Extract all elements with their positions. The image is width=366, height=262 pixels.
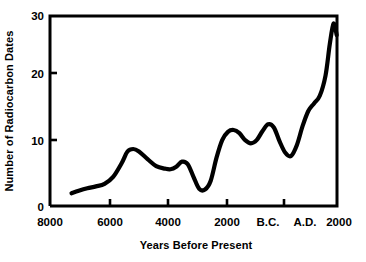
chart-svg: Number of Radiocarbon Dates 30 20 10 0 8… [0, 0, 366, 262]
x-tick-label-bc: B.C. [257, 216, 280, 228]
y-tick-label-0: 0 [38, 201, 44, 213]
y-axis-title: Number of Radiocarbon Dates [3, 30, 15, 191]
y-tick-label-30: 30 [31, 10, 44, 22]
y-tick-label-20: 20 [31, 68, 44, 80]
x-tick-label-2000: 2000 [214, 216, 240, 228]
x-axis-title: Years Before Present [140, 239, 253, 251]
x-tick-label-6000: 6000 [97, 216, 123, 228]
y-tick-label-10: 10 [31, 135, 44, 147]
radiocarbon-dates-chart: Number of Radiocarbon Dates 30 20 10 0 8… [0, 0, 366, 262]
x-tick-label-8000: 8000 [37, 216, 63, 228]
x-tick-label-ad: A.D. [294, 216, 317, 228]
x-tick-label-2000-ad: 2000 [326, 216, 352, 228]
x-tick-label-4000: 4000 [155, 216, 181, 228]
